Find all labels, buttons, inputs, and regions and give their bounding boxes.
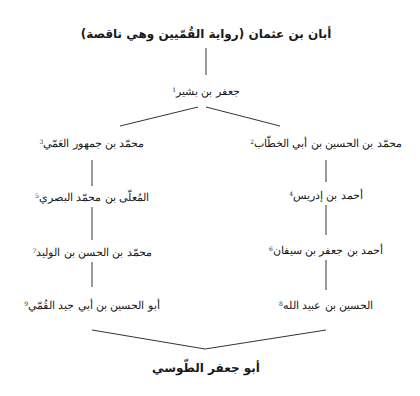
node-label: أحمد بن إدريس [293, 189, 363, 201]
footnote-marker: 1 [172, 86, 176, 93]
footnote-marker: 3 [40, 138, 44, 145]
node-label: المُعلّى بن محمّد البصري [39, 191, 149, 203]
connector-left-to-terminal [92, 330, 205, 349]
left-node-3: محمّد بن الحسن بن الوليد7 [32, 245, 151, 259]
root-node: أبان بن عثمان (رواية القُمّيين وهي ناقصة… [81, 26, 332, 42]
left-node-4: أبو الحسين بن أبي جيد القُمّي9 [24, 298, 160, 312]
connector-second-to-right [206, 107, 280, 126]
node-label: أبو الحسين بن أبي جيد القُمّي [28, 299, 160, 311]
node-label: محمّد بن الحسين بن أبي الخطّاب [254, 137, 402, 149]
footnote-marker: 9 [24, 300, 28, 307]
terminal-node: أبو جعفر الطّوسي [152, 360, 260, 376]
right-node-1: محمّد بن الحسين بن أبي الخطّاب2 [250, 136, 402, 150]
right-node-3: أحمد بن جعفر بن سيفان6 [269, 243, 383, 257]
terminal-node-label: أبو جعفر الطّوسي [152, 361, 260, 375]
footnote-marker: 8 [279, 300, 283, 307]
footnote-marker: 6 [269, 245, 273, 252]
left-node-2: المُعلّى بن محمّد البصري5 [35, 190, 149, 204]
footnote-marker: 2 [250, 138, 254, 145]
footnote-marker: 7 [32, 247, 36, 254]
footnote-marker: 5 [35, 192, 39, 199]
root-node-label: أبان بن عثمان (رواية القُمّيين وهي ناقصة… [81, 27, 332, 41]
right-node-4: الحسين بن عبيد الله8 [279, 298, 373, 312]
left-node-1: محمّد بن جمهور العَمّي3 [40, 136, 145, 150]
node-label: الحسين بن عبيد الله [283, 299, 373, 311]
second-node-label: جعفر بن بشير [176, 85, 240, 97]
connector-right-to-terminal [205, 330, 326, 349]
node-label: محمّد بن جمهور العَمّي [43, 137, 144, 149]
second-node: جعفر بن بشير1 [172, 84, 240, 98]
node-label: محمّد بن الحسن بن الوليد [36, 246, 151, 258]
right-node-2: أحمد بن إدريس4 [289, 188, 363, 202]
footnote-marker: 4 [289, 190, 293, 197]
node-label: أحمد بن جعفر بن سيفان [273, 244, 383, 256]
connector-second-to-left [120, 107, 198, 126]
